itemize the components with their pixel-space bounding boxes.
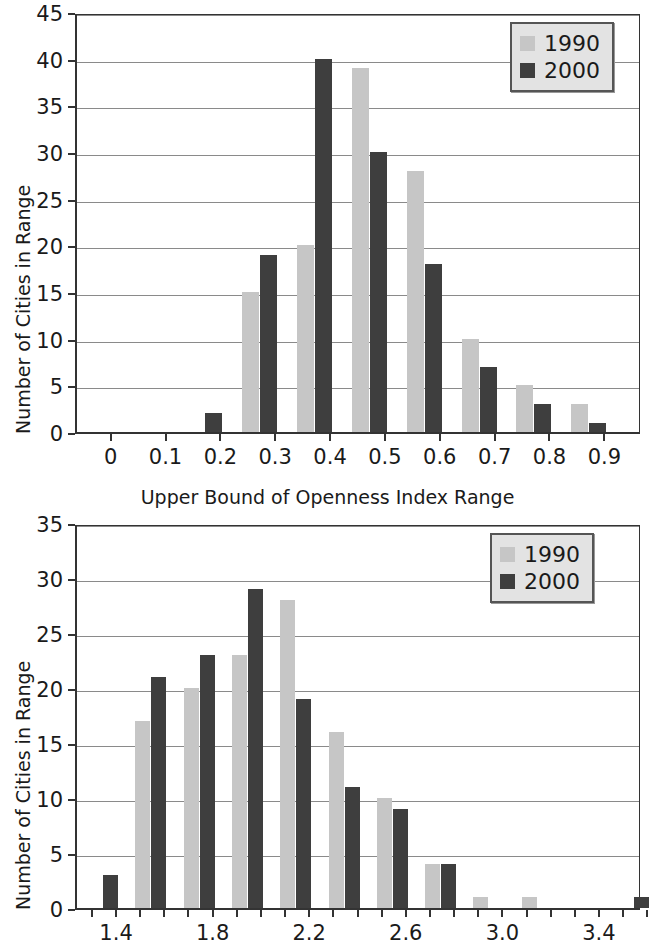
x-tick-mark (526, 910, 528, 917)
x-tick-mark (236, 910, 238, 917)
y-tick-mark (68, 246, 75, 248)
x-tick-mark (308, 910, 310, 917)
x-tick-mark (163, 910, 165, 917)
secondary-index-chart: Number of Cities in Range 1990 2000 0510… (0, 500, 655, 945)
legend-label-1990: 1990 (544, 33, 600, 55)
legend-swatch-2000 (520, 63, 535, 78)
y-axis-title: Number of Cities in Range (12, 185, 34, 434)
x-tick-mark (384, 434, 386, 441)
x-tick-mark (603, 434, 605, 441)
bar-2000 (345, 787, 360, 908)
legend-item: 2000 (520, 57, 600, 84)
x-tick-mark (381, 910, 383, 917)
x-tick-label: 3.0 (486, 923, 519, 944)
x-tick-label: 3.4 (582, 923, 615, 944)
x-tick-label: 2.2 (293, 923, 326, 944)
x-tick-mark (115, 910, 117, 917)
y-tick-label: 15 (36, 284, 63, 305)
x-tick-mark (477, 910, 479, 917)
y-tick-mark (68, 200, 75, 202)
x-tick-mark (260, 910, 262, 917)
legend-swatch-2000 (500, 574, 515, 589)
x-tick-mark (439, 434, 441, 441)
y-tick-label: 10 (36, 330, 63, 351)
bar-2000 (589, 423, 606, 432)
x-tick-label: 0.1 (149, 447, 182, 468)
bar-2000 (260, 255, 277, 432)
bar-1990 (571, 404, 588, 432)
bar-1990 (135, 721, 150, 908)
x-tick-label: 1.8 (196, 923, 229, 944)
y-tick-mark (68, 799, 75, 801)
y-tick-label: 25 (36, 625, 63, 646)
x-tick-mark (598, 910, 600, 917)
legend-item: 1990 (500, 541, 580, 568)
legend-label-2000: 2000 (524, 571, 580, 593)
bar-1990 (462, 339, 479, 432)
gridline (77, 526, 639, 527)
bar-1990 (377, 798, 392, 908)
bar-2000 (441, 864, 456, 908)
x-tick-mark (453, 910, 455, 917)
x-tick-label: 0.4 (313, 447, 346, 468)
x-tick-mark (494, 434, 496, 441)
legend-label-1990: 1990 (524, 544, 580, 566)
y-tick-mark (68, 386, 75, 388)
x-tick-mark (429, 910, 431, 917)
legend-item: 2000 (500, 568, 580, 595)
bar-1990 (184, 688, 199, 908)
x-tick-mark (110, 434, 112, 441)
bar-1990 (473, 897, 488, 908)
x-tick-label: 1.4 (99, 923, 132, 944)
y-tick-mark (68, 634, 75, 636)
x-tick-label: 0.8 (533, 447, 566, 468)
y-tick-label: 5 (50, 845, 63, 866)
y-tick-mark (68, 689, 75, 691)
bar-2000 (200, 655, 215, 908)
x-tick-mark (329, 434, 331, 441)
bar-2000 (296, 699, 311, 908)
x-tick-label: 0 (104, 447, 117, 468)
x-tick-label: 0.7 (478, 447, 511, 468)
bar-2000 (480, 367, 497, 432)
y-tick-mark (68, 293, 75, 295)
y-tick-mark (68, 60, 75, 62)
y-tick-label: 35 (36, 515, 63, 536)
y-tick-mark (68, 579, 75, 581)
y-tick-mark (68, 340, 75, 342)
y-tick-label: 30 (36, 570, 63, 591)
y-tick-label: 45 (36, 4, 63, 25)
x-tick-label: 0.9 (588, 447, 621, 468)
x-tick-label: 2.6 (389, 923, 422, 944)
x-tick-mark (357, 910, 359, 917)
y-tick-mark (68, 153, 75, 155)
y-tick-mark (68, 854, 75, 856)
y-tick-mark (68, 909, 75, 911)
legend: 1990 2000 (490, 533, 594, 603)
x-tick-mark (212, 910, 214, 917)
bar-1990 (329, 732, 344, 908)
y-tick-label: 0 (50, 424, 63, 445)
y-tick-label: 0 (50, 900, 63, 921)
y-tick-label: 35 (36, 97, 63, 118)
x-tick-label: 0.3 (259, 447, 292, 468)
legend-swatch-1990 (500, 547, 515, 562)
bar-2000 (315, 59, 332, 432)
bar-1990 (522, 897, 537, 908)
x-tick-mark (219, 434, 221, 441)
bar-2000 (103, 875, 118, 908)
y-tick-mark (68, 13, 75, 15)
y-axis-title: Number of Cities in Range (12, 661, 34, 910)
legend-label-2000: 2000 (544, 60, 600, 82)
bar-2000 (248, 589, 263, 908)
x-tick-mark (646, 910, 648, 917)
x-tick-mark (548, 434, 550, 441)
gridline (77, 15, 639, 16)
y-tick-mark (68, 744, 75, 746)
bar-1990 (297, 245, 314, 432)
x-tick-mark (405, 910, 407, 917)
bar-1990 (407, 171, 424, 432)
y-tick-mark (68, 106, 75, 108)
x-tick-label: 0.5 (368, 447, 401, 468)
bar-1990 (516, 385, 533, 432)
